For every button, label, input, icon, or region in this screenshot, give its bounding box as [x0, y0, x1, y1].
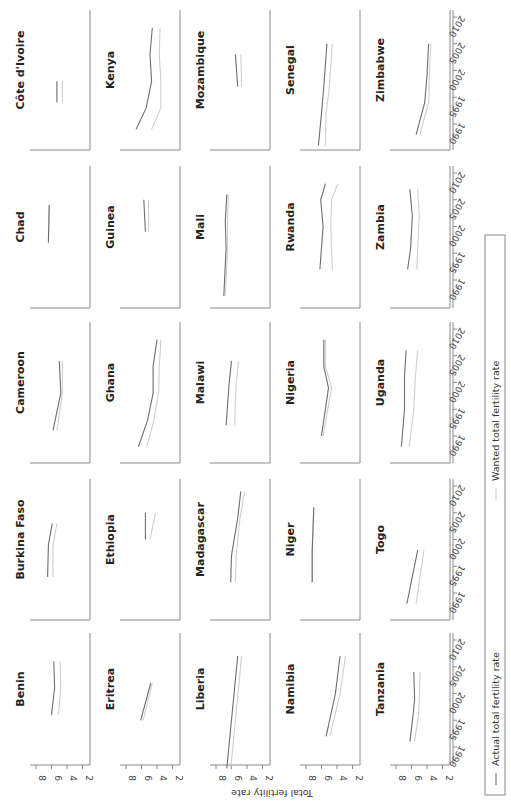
panel-guinea: Guinea	[104, 166, 180, 308]
panel-title: Rwanda	[284, 202, 297, 251]
panel-eritrea: 8642Eritrea	[104, 633, 184, 781]
panel-title: Burkina Faso	[14, 499, 27, 580]
wanted-line	[235, 491, 244, 582]
y-tick-label: 6	[233, 775, 243, 781]
panel-ghana: Ghana	[104, 322, 180, 463]
y-tick-label: 6	[143, 775, 153, 781]
panel-zimbabwe: Zimbabwe	[374, 10, 450, 150]
panel-burkina-faso: Burkina Faso	[14, 479, 90, 620]
y-tick-label: 2	[444, 775, 454, 781]
actual-line	[401, 350, 406, 446]
legend-actual-label: Actual total fertility rate	[490, 652, 501, 766]
y-tick-label: 8	[397, 775, 407, 781]
panel-title: Madagascar	[194, 501, 207, 576]
wanted-line	[59, 661, 61, 715]
panel-c-te-d-ivoire: Côte d'Ivoire	[14, 10, 90, 150]
panel-tanzania: 8642Tanzania	[374, 633, 454, 781]
actual-line	[416, 44, 429, 135]
wanted-line	[152, 28, 161, 130]
panel-togo: Togo	[374, 479, 450, 620]
panel-title: Chad	[14, 211, 27, 242]
wanted-line	[143, 683, 152, 721]
y-tick-label: 6	[323, 775, 333, 781]
wanted-line	[235, 361, 239, 425]
panel-title: Mali	[194, 214, 207, 240]
actual-line	[136, 28, 152, 130]
actual-line	[144, 200, 146, 232]
y-tick-label: 4	[158, 775, 168, 781]
panel-title: Nigeria	[284, 360, 297, 405]
panel-nigeria: Nigeria	[284, 322, 360, 463]
panel-title: Cameroon	[14, 351, 27, 414]
panel-title: Ethiopia	[104, 514, 117, 565]
panel-ethiopia: Ethiopia	[104, 479, 180, 620]
y-tick-label: 4	[68, 775, 78, 781]
legend: Actual total fertility rate Wanted total…	[485, 235, 505, 795]
actual-line	[235, 54, 237, 86]
panel-title: Tanzania	[374, 662, 387, 716]
wanted-line	[416, 550, 424, 604]
panel-niger: Niger	[284, 479, 360, 620]
panel-title: Namibia	[284, 664, 297, 715]
actual-line	[53, 361, 61, 431]
panel-grid: 8642BeninBurkina FasoCameroonChadCôte d'…	[14, 10, 454, 781]
panel-title: Liberia	[194, 668, 207, 711]
panel-senegal: Senegal	[284, 10, 360, 150]
panel-zambia: Zambia	[374, 166, 450, 308]
actual-line	[410, 672, 415, 742]
wanted-line	[323, 340, 332, 436]
fertility-small-multiples-chart: 8642BeninBurkina FasoCameroonChadCôte d'…	[0, 0, 511, 809]
actual-line	[408, 189, 413, 269]
panel-madagascar: Madagascar	[194, 479, 270, 620]
panel-title: Zimbabwe	[374, 38, 387, 102]
panel-liberia: 8642Liberia	[194, 633, 274, 781]
wanted-line	[331, 184, 338, 270]
wanted-line	[241, 54, 242, 86]
y-tick-label: 4	[248, 775, 258, 781]
y-tick-label: 6	[413, 775, 423, 781]
panel-title: Guinea	[104, 205, 117, 248]
wanted-line	[330, 656, 346, 736]
panel-benin: 8642Benin	[14, 633, 94, 781]
y-axis-label: Total fertility rate	[231, 788, 314, 799]
panel-namibia: 8642Namibia	[284, 633, 364, 781]
actual-line	[141, 683, 151, 721]
actual-line	[226, 361, 231, 425]
y-tick-label: 8	[307, 775, 317, 781]
actual-line	[320, 184, 326, 270]
wanted-line	[150, 513, 155, 540]
panel-title: Mozambique	[194, 31, 207, 110]
y-tick-label: 8	[37, 775, 47, 781]
panel-title: Malawi	[194, 361, 207, 405]
panel-title: Benin	[14, 671, 27, 706]
wanted-line	[325, 44, 332, 146]
actual-line	[312, 507, 314, 582]
wanted-line	[409, 350, 418, 446]
panel-kenya: Kenya	[104, 10, 180, 150]
wanted-line	[147, 340, 161, 447]
actual-line	[138, 340, 157, 447]
y-tick-label: 2	[84, 775, 94, 781]
panel-chad: Chad	[14, 166, 90, 308]
panel-mozambique: Mozambique	[194, 10, 270, 150]
legend-wanted-label: Wanted total fertility rate	[490, 360, 501, 481]
actual-line	[52, 661, 55, 715]
panel-uganda: Uganda	[374, 322, 450, 463]
y-tick-label: 2	[264, 775, 274, 781]
wanted-line	[417, 189, 419, 269]
panel-title: Côte d'Ivoire	[14, 31, 27, 110]
actual-line	[407, 550, 418, 604]
panel-title: Senegal	[284, 45, 297, 95]
y-tick-label: 6	[53, 775, 63, 781]
panel-mali: Mali	[194, 166, 270, 308]
wanted-line	[53, 524, 57, 578]
y-tick-label: 2	[174, 775, 184, 781]
panel-cameroon: Cameroon	[14, 322, 90, 463]
panel-title: Kenya	[104, 51, 117, 89]
y-tick-label: 8	[217, 775, 227, 781]
panel-malawi: Malawi	[194, 322, 270, 463]
y-tick-label: 2	[354, 775, 364, 781]
wanted-line	[415, 672, 420, 742]
panel-rwanda: Rwanda	[284, 166, 360, 308]
panel-title: Eritrea	[104, 668, 117, 710]
